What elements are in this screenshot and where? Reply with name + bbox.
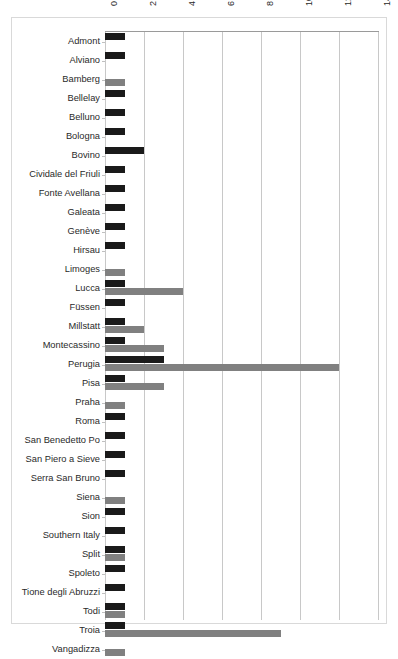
y-tickmark [102, 194, 105, 195]
bar-series-1 [105, 622, 125, 629]
bar-series-1 [105, 527, 125, 534]
x-tick-label-12: 12 [343, 0, 353, 6]
category-label: Belluno [69, 113, 100, 122]
chart-row: Belluno [105, 108, 378, 127]
bar-series-1 [105, 413, 125, 420]
bar-series-2 [105, 554, 125, 561]
bar-series-1 [105, 375, 125, 382]
category-label: Genève [67, 227, 100, 236]
bar-series-1 [105, 508, 125, 515]
category-rows: AdmontAlvianoBambergBellelayBellunoBolog… [105, 32, 378, 620]
category-label: Fonte Avellana [39, 189, 100, 198]
chart-row: Vangadizza [105, 640, 378, 659]
category-label: Cividale del Friuli [29, 170, 100, 179]
bar-series-2 [105, 288, 183, 295]
bar-series-1 [105, 242, 125, 249]
y-tickmark [102, 517, 105, 518]
bar-series-2 [105, 383, 164, 390]
y-tickmark [102, 175, 105, 176]
chart-row: Todi [105, 602, 378, 621]
bar-series-2 [105, 611, 125, 618]
chart-row: Admont [105, 32, 378, 51]
chart-row: Genève [105, 222, 378, 241]
bar-series-2 [105, 649, 125, 656]
plot-area: AdmontAlvianoBambergBellelayBellunoBolog… [105, 32, 378, 620]
category-label: Split [82, 550, 100, 559]
category-label: Tione degli Abruzzi [22, 588, 100, 597]
chart-row: Pisa [105, 374, 378, 393]
y-tickmark [102, 593, 105, 594]
bar-series-1 [105, 546, 125, 553]
chart-row: Troia [105, 621, 378, 640]
category-label: Füssen [70, 303, 101, 312]
x-tick-label-0: 0 [109, 1, 119, 6]
bar-series-1 [105, 166, 125, 173]
chart-row: Fonte Avellana [105, 184, 378, 203]
chart-row: Alviano [105, 51, 378, 70]
bar-series-1 [105, 52, 125, 59]
category-label: Siena [76, 493, 100, 502]
bar-series-1 [105, 185, 125, 192]
chart-row: Bamberg [105, 70, 378, 89]
x-tick-label-10: 10 [304, 0, 314, 6]
x-tick-label-2: 2 [148, 1, 158, 6]
chart-row: Spoleto [105, 564, 378, 583]
chart-row: Galeata [105, 203, 378, 222]
category-label: Galeata [67, 208, 100, 217]
category-label: Perugia [68, 360, 100, 369]
chart-row: Bovino [105, 146, 378, 165]
y-tickmark [102, 99, 105, 100]
bar-series-1 [105, 147, 144, 154]
chart-row: Montecassino [105, 336, 378, 355]
bar-series-2 [105, 497, 125, 504]
bar-series-1 [105, 318, 125, 325]
chart-row: Cividale del Friuli [105, 165, 378, 184]
chart-row: Praha [105, 393, 378, 412]
y-tickmark [102, 441, 105, 442]
category-label: Roma [75, 417, 100, 426]
bar-series-2 [105, 364, 339, 371]
chart-row: Siena [105, 488, 378, 507]
bar-series-1 [105, 565, 125, 572]
category-label: Montecassino [43, 341, 100, 350]
bar-series-1 [105, 280, 125, 287]
y-tickmark [102, 213, 105, 214]
bar-series-1 [105, 223, 125, 230]
x-tick-label-6: 6 [226, 1, 236, 6]
category-label: Bamberg [62, 75, 100, 84]
y-tickmark [102, 479, 105, 480]
chart-row: Perugia [105, 355, 378, 374]
category-label: San Piero a Sieve [26, 455, 100, 464]
bar-series-1 [105, 337, 125, 344]
x-tick-label-8: 8 [265, 1, 275, 6]
bar-series-2 [105, 326, 144, 333]
category-label: Limoges [65, 265, 100, 274]
chart-row: San Piero a Sieve [105, 450, 378, 469]
category-label: Alviano [70, 56, 101, 65]
category-label: Hirsau [73, 246, 100, 255]
category-label: Serra San Bruno [31, 474, 100, 483]
category-label: Sion [81, 512, 100, 521]
bar-series-2 [105, 269, 125, 276]
bar-series-2 [105, 402, 125, 409]
chart-row: Roma [105, 412, 378, 431]
bar-series-2 [105, 345, 164, 352]
y-tickmark [102, 156, 105, 157]
chart-row: Split [105, 545, 378, 564]
bar-series-1 [105, 128, 125, 135]
category-label: Admont [68, 37, 100, 46]
category-label: Bovino [72, 151, 100, 160]
bar-series-1 [105, 584, 125, 591]
y-tickmark [102, 251, 105, 252]
y-tickmark [102, 574, 105, 575]
bar-series-1 [105, 356, 164, 363]
bar-series-1 [105, 204, 125, 211]
chart-row: Hirsau [105, 241, 378, 260]
chart-row: Tione degli Abruzzi [105, 583, 378, 602]
category-label: Pisa [82, 379, 100, 388]
category-label: Troia [79, 626, 100, 635]
chart-row: Limoges [105, 260, 378, 279]
bar-series-1 [105, 451, 125, 458]
chart-row: Bologna [105, 127, 378, 146]
